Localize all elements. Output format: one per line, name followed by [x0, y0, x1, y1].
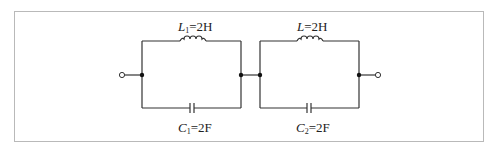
capacitor-2-label: C2=2F: [296, 121, 330, 136]
junction-node-icon: [357, 73, 361, 77]
inductor-1-label: L1=2H: [178, 20, 212, 35]
capacitor-2-value: =2F: [309, 120, 330, 135]
inductor-icon: [180, 36, 206, 41]
capacitor-1-value: =2F: [191, 120, 212, 135]
inductor-2-label: L=2H: [297, 20, 327, 35]
junction-node-icon: [258, 73, 262, 77]
junction-node-icon: [140, 73, 144, 77]
circuit-diagram: [0, 0, 494, 154]
capacitor-2-symbol: C: [296, 120, 305, 135]
inductor-icon: [297, 36, 323, 41]
lc-tank-1: [142, 36, 241, 113]
inductor-2-value: =2H: [304, 19, 327, 34]
lc-tank-2: [260, 36, 359, 113]
output-terminal-icon: [375, 72, 380, 77]
capacitor-1-label: C1=2F: [178, 121, 212, 136]
input-terminal-icon: [119, 72, 124, 77]
capacitor-1-symbol: C: [178, 120, 187, 135]
junction-node-icon: [239, 73, 243, 77]
inductor-1-value: =2H: [189, 19, 212, 34]
